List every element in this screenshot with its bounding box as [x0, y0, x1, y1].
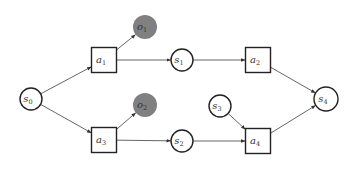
edge-a2-to-s4 [271, 67, 316, 93]
node-s2: s2 [171, 130, 193, 152]
node-o1: o1 [133, 15, 157, 39]
edge-a1-to-o1 [117, 35, 136, 50]
node-o2: o2 [133, 93, 157, 117]
node-a2: a2 [246, 48, 271, 73]
nodes-layer: s0a1o1s1a2s4a3o2s2s3a4 [20, 15, 338, 154]
edge-s0-to-a3 [41, 104, 92, 133]
node-a1: a1 [92, 48, 117, 73]
edge-a3-to-o2 [117, 113, 136, 130]
edge-s0-to-a1 [41, 67, 92, 94]
node-a4: a4 [246, 129, 271, 154]
node-a3: a3 [92, 128, 117, 153]
node-s0: s0 [20, 88, 42, 110]
edge-s3-to-a4 [228, 113, 245, 129]
edge-a4-to-s4 [271, 105, 316, 133]
node-s4: s4 [314, 87, 338, 111]
decision-network-diagram: s0a1o1s1a2s4a3o2s2s3a4 [0, 0, 357, 169]
node-s3: s3 [209, 95, 231, 117]
edge-a3-to-s2 [117, 140, 172, 141]
node-s1: s1 [171, 49, 193, 71]
